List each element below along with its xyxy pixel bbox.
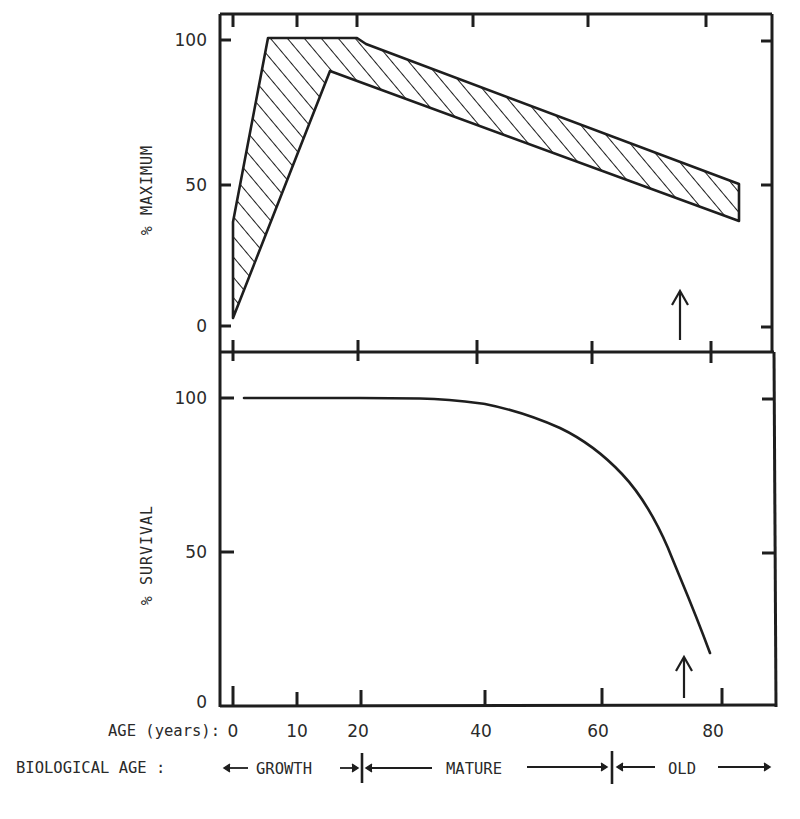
top-y-tick-100: 100	[175, 30, 207, 50]
bottom-y-tick-100: 100	[175, 388, 207, 408]
maximum-band	[233, 38, 739, 318]
stage-mature: MATURE	[366, 760, 607, 778]
x-tick-0: 0	[228, 721, 239, 741]
arrow-up-icon	[672, 291, 688, 340]
stage-growth: GROWTH	[224, 760, 358, 778]
bottom-y-axis-title: % SURVIVAL	[138, 505, 156, 605]
x-tick-60: 60	[587, 721, 609, 741]
bottom-y-ticks	[220, 398, 775, 553]
bottom-y-tick-50: 50	[185, 542, 207, 562]
top-y-axis-title: % MAXIMUM	[138, 145, 156, 235]
bottom-x-ticks	[233, 686, 722, 706]
stage-mature-label: MATURE	[446, 760, 502, 778]
bottom-panel: 100 50 0 % SURVIVAL	[138, 352, 777, 712]
bottom-y-tick-0: 0	[196, 692, 207, 712]
arrow-right-icon	[352, 764, 358, 772]
biological-age-label: BIOLOGICAL AGE :	[16, 759, 165, 777]
figure-canvas: 100 50 0 % MAXIMUM 100	[0, 0, 800, 819]
stage-old: OLD	[617, 760, 770, 778]
arrow-left-icon	[366, 764, 372, 772]
x-tick-40: 40	[470, 721, 492, 741]
x-tick-20: 20	[347, 721, 369, 741]
x-tick-10: 10	[286, 721, 308, 741]
biological-age-row: BIOLOGICAL AGE : GROWTH MATURE OLD	[16, 751, 770, 784]
x-tick-80: 80	[702, 721, 724, 741]
arrow-right-icon	[764, 763, 770, 771]
top-panel: 100 50 0 % MAXIMUM	[138, 14, 774, 364]
top-x-ticks	[233, 14, 706, 27]
age-axis-label: AGE (years):	[108, 722, 220, 740]
survival-curve	[244, 398, 710, 653]
top-y-tick-0: 0	[196, 316, 207, 336]
stage-old-label: OLD	[668, 760, 696, 778]
arrow-right-icon	[601, 763, 607, 771]
age-axis-row: AGE (years): 0 10 20 40 60 80	[108, 721, 724, 741]
bottom-panel-x-axis	[220, 705, 777, 706]
bottom-panel-right-border	[774, 352, 776, 707]
stage-growth-label: GROWTH	[256, 760, 312, 778]
top-y-tick-50: 50	[185, 175, 207, 195]
arrow-left-icon	[617, 763, 623, 771]
arrow-up-icon	[676, 657, 692, 698]
arrow-left-icon	[224, 764, 230, 772]
